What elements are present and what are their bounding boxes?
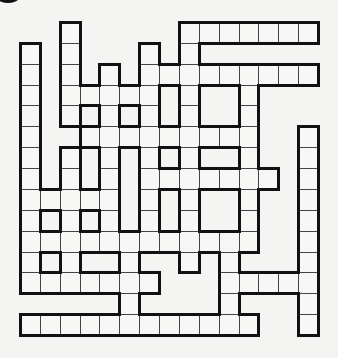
grid-cell-r0-c10[interactable] — [219, 22, 240, 44]
grid-cell-r2-c13[interactable] — [278, 64, 299, 86]
grid-cell-r4-c6[interactable] — [139, 105, 160, 127]
grid-cell-r8-c4[interactable] — [99, 189, 120, 211]
grid-cell-r3-c5[interactable] — [119, 85, 140, 107]
grid-cell-r6-c8[interactable] — [179, 147, 200, 169]
grid-cell-r9-c11[interactable] — [239, 210, 260, 232]
grid-cell-r4-c2[interactable] — [60, 105, 81, 127]
grid-cell-r10-c6[interactable] — [139, 231, 160, 253]
grid-cell-r0-c2[interactable] — [60, 22, 81, 44]
grid-cell-r7-c10[interactable] — [219, 168, 240, 190]
grid-cell-r8-c0[interactable] — [20, 189, 41, 211]
grid-cell-r10-c1[interactable] — [40, 231, 61, 253]
grid-cell-r8-c11[interactable] — [239, 189, 260, 211]
grid-cell-r2-c4[interactable] — [99, 64, 120, 86]
grid-cell-r8-c14[interactable] — [298, 189, 319, 211]
grid-cell-r5-c8[interactable] — [179, 126, 200, 148]
grid-cell-r10-c0[interactable] — [20, 231, 41, 253]
grid-cell-r10-c4[interactable] — [99, 231, 120, 253]
grid-cell-r14-c5[interactable] — [119, 314, 140, 336]
grid-cell-r9-c4[interactable] — [99, 210, 120, 232]
grid-cell-r11-c2[interactable] — [60, 252, 81, 274]
grid-cell-r5-c5[interactable] — [119, 126, 140, 148]
grid-cell-r4-c0[interactable] — [20, 105, 41, 127]
grid-cell-r8-c8[interactable] — [179, 189, 200, 211]
grid-cell-r7-c2[interactable] — [60, 168, 81, 190]
grid-cell-r1-c0[interactable] — [20, 43, 41, 65]
grid-cell-r14-c2[interactable] — [60, 314, 81, 336]
grid-cell-r6-c0[interactable] — [20, 147, 41, 169]
grid-cell-r12-c14[interactable] — [298, 272, 319, 294]
grid-cell-r10-c7[interactable] — [159, 231, 180, 253]
grid-cell-r6-c4[interactable] — [99, 147, 120, 169]
grid-cell-r12-c1[interactable] — [40, 272, 61, 294]
grid-cell-r0-c13[interactable] — [278, 22, 299, 44]
grid-cell-r3-c4[interactable] — [99, 85, 120, 107]
grid-cell-r11-c14[interactable] — [298, 252, 319, 274]
grid-cell-r3-c8[interactable] — [179, 85, 200, 107]
grid-cell-r2-c10[interactable] — [219, 64, 240, 86]
grid-cell-r2-c9[interactable] — [199, 64, 220, 86]
grid-cell-r13-c5[interactable] — [119, 293, 140, 315]
grid-cell-r2-c2[interactable] — [60, 64, 81, 86]
grid-cell-r7-c6[interactable] — [139, 168, 160, 190]
grid-cell-r9-c6[interactable] — [139, 210, 160, 232]
grid-cell-r7-c12[interactable] — [258, 168, 279, 190]
grid-cell-r14-c10[interactable] — [219, 314, 240, 336]
grid-cell-r12-c2[interactable] — [60, 272, 81, 294]
grid-cell-r2-c7[interactable] — [159, 64, 180, 86]
grid-cell-r12-c3[interactable] — [80, 272, 101, 294]
grid-cell-r8-c6[interactable] — [139, 189, 160, 211]
grid-cell-r12-c0[interactable] — [20, 272, 41, 294]
grid-cell-r12-c4[interactable] — [99, 272, 120, 294]
grid-cell-r14-c11[interactable] — [239, 314, 260, 336]
grid-cell-r14-c7[interactable] — [159, 314, 180, 336]
grid-cell-r10-c14[interactable] — [298, 231, 319, 253]
grid-cell-r10-c10[interactable] — [219, 231, 240, 253]
grid-cell-r6-c11[interactable] — [239, 147, 260, 169]
grid-cell-r12-c10[interactable] — [219, 272, 240, 294]
grid-cell-r5-c6[interactable] — [139, 126, 160, 148]
grid-cell-r3-c0[interactable] — [20, 85, 41, 107]
grid-cell-r5-c10[interactable] — [219, 126, 240, 148]
grid-cell-r10-c8[interactable] — [179, 231, 200, 253]
grid-cell-r5-c11[interactable] — [239, 126, 260, 148]
grid-cell-r3-c11[interactable] — [239, 85, 260, 107]
grid-cell-r7-c8[interactable] — [179, 168, 200, 190]
grid-cell-r2-c14[interactable] — [298, 64, 319, 86]
grid-cell-r10-c2[interactable] — [60, 231, 81, 253]
grid-cell-r10-c3[interactable] — [80, 231, 101, 253]
grid-cell-r7-c7[interactable] — [159, 168, 180, 190]
grid-cell-r12-c11[interactable] — [239, 272, 260, 294]
grid-cell-r10-c11[interactable] — [239, 231, 260, 253]
grid-cell-r2-c12[interactable] — [258, 64, 279, 86]
grid-cell-r4-c4[interactable] — [99, 105, 120, 127]
grid-cell-r8-c2[interactable] — [60, 189, 81, 211]
grid-cell-r8-c3[interactable] — [80, 189, 101, 211]
grid-cell-r6-c6[interactable] — [139, 147, 160, 169]
grid-cell-r11-c8[interactable] — [179, 252, 200, 274]
grid-cell-r5-c3[interactable] — [80, 126, 101, 148]
grid-cell-r14-c14[interactable] — [298, 314, 319, 336]
grid-cell-r1-c6[interactable] — [139, 43, 160, 65]
grid-cell-r10-c5[interactable] — [119, 231, 140, 253]
grid-cell-r5-c9[interactable] — [199, 126, 220, 148]
grid-cell-r14-c3[interactable] — [80, 314, 101, 336]
grid-cell-r0-c12[interactable] — [258, 22, 279, 44]
grid-cell-r5-c4[interactable] — [99, 126, 120, 148]
grid-cell-r11-c5[interactable] — [119, 252, 140, 274]
grid-cell-r5-c7[interactable] — [159, 126, 180, 148]
grid-cell-r7-c14[interactable] — [298, 168, 319, 190]
grid-cell-r0-c9[interactable] — [199, 22, 220, 44]
grid-cell-r14-c1[interactable] — [40, 314, 61, 336]
grid-cell-r14-c6[interactable] — [139, 314, 160, 336]
grid-cell-r4-c8[interactable] — [179, 105, 200, 127]
grid-cell-r1-c8[interactable] — [179, 43, 200, 65]
grid-cell-r9-c14[interactable] — [298, 210, 319, 232]
grid-cell-r0-c8[interactable] — [179, 22, 200, 44]
grid-cell-r14-c4[interactable] — [99, 314, 120, 336]
grid-cell-r12-c6[interactable] — [139, 272, 160, 294]
grid-cell-r0-c11[interactable] — [239, 22, 260, 44]
grid-cell-r12-c12[interactable] — [258, 272, 279, 294]
grid-cell-r3-c3[interactable] — [80, 85, 101, 107]
grid-cell-r5-c14[interactable] — [298, 126, 319, 148]
